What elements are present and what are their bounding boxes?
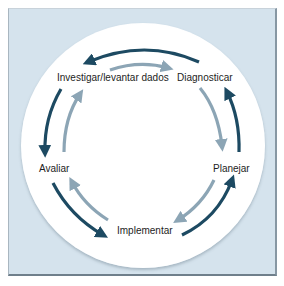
arrow-planejar-to-implementar bbox=[178, 180, 214, 220]
arrow-avaliar-to-investigar bbox=[64, 94, 80, 152]
arrow-diagnosticar-to-planejar bbox=[200, 88, 222, 146]
arrow-diagnosticar-to-investigar bbox=[88, 50, 199, 62]
node-planejar: Planejar bbox=[213, 163, 250, 175]
arrow-investigar-to-diagnosticar bbox=[110, 64, 168, 70]
node-implementar: Implementar bbox=[117, 225, 173, 237]
arrow-investigar-to-avaliar bbox=[45, 89, 61, 152]
arrow-implementar-to-planejar bbox=[182, 180, 232, 235]
arrow-planejar-to-diagnosticar bbox=[227, 92, 239, 152]
node-avaliar: Avaliar bbox=[39, 163, 69, 175]
cycle-arrows bbox=[0, 0, 284, 286]
node-investigar: Investigar/levantar dados bbox=[57, 72, 169, 84]
node-diagnosticar: Diagnosticar bbox=[177, 72, 233, 84]
